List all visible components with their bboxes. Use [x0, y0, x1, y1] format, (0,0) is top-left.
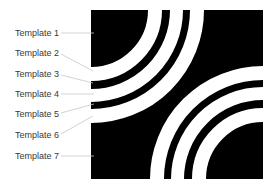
- leader-line-3: [61, 75, 93, 83]
- label-template-3: Template 3: [15, 69, 59, 79]
- label-template-2: Template 2: [15, 48, 59, 58]
- leader-line-2: [61, 54, 93, 71]
- label-template-5: Template 5: [15, 109, 59, 119]
- label-template-1: Template 1: [15, 28, 59, 38]
- label-template-6: Template 6: [15, 130, 59, 140]
- template-diagram: Template 1 Template 2 Template 3 Templat…: [0, 0, 272, 189]
- label-template-7: Template 7: [15, 151, 59, 161]
- leader-line-5: [61, 104, 94, 113]
- label-template-4: Template 4: [15, 89, 59, 99]
- leader-line-6: [61, 116, 93, 134]
- leader-lines: [61, 33, 94, 156]
